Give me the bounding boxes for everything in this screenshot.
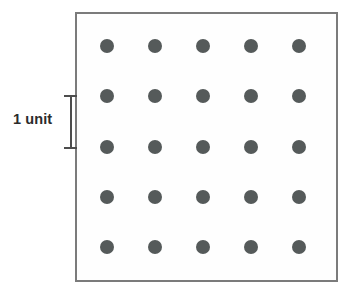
grid-dot xyxy=(148,190,162,204)
grid-dot xyxy=(100,240,114,254)
grid-dot xyxy=(196,240,210,254)
grid-dot xyxy=(292,190,306,204)
scale-label: 1 unit xyxy=(13,111,61,127)
grid-dot xyxy=(148,140,162,154)
grid-dot xyxy=(100,39,114,53)
grid-dot xyxy=(196,39,210,53)
grid-dot xyxy=(244,140,258,154)
grid-dot xyxy=(196,140,210,154)
grid-dot xyxy=(244,190,258,204)
grid-dot xyxy=(244,240,258,254)
scale-bracket xyxy=(64,94,77,150)
grid-dot xyxy=(244,89,258,103)
bracket-stem-icon xyxy=(70,96,72,148)
grid-dot xyxy=(292,240,306,254)
grid-dot xyxy=(100,140,114,154)
grid-dot xyxy=(100,89,114,103)
grid-dot xyxy=(292,39,306,53)
diagram-canvas: 1 unit xyxy=(0,0,351,297)
bracket-bottom-cap-icon xyxy=(64,147,77,149)
grid-dot xyxy=(196,89,210,103)
grid-dot xyxy=(292,89,306,103)
grid-dot xyxy=(196,190,210,204)
grid-dot xyxy=(148,39,162,53)
grid-bounding-box xyxy=(75,12,338,282)
grid-dot xyxy=(148,240,162,254)
grid-dot xyxy=(244,39,258,53)
grid-dot xyxy=(148,89,162,103)
grid-dot xyxy=(292,140,306,154)
grid-dot xyxy=(100,190,114,204)
